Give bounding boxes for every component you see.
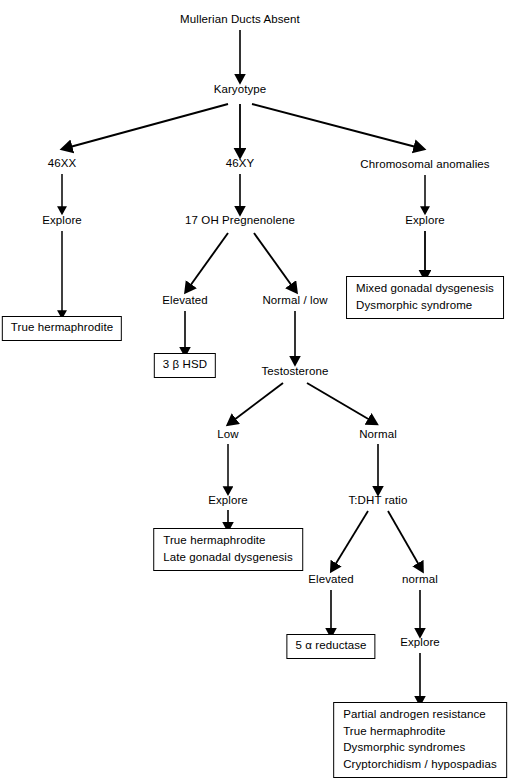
edge-testosterone-normal (307, 383, 370, 420)
node-normal-low-pregnenolene: Normal / low (262, 293, 327, 307)
node-normal-t-dht: normal (402, 572, 438, 586)
node-explore-low-testosterone: Explore (208, 493, 248, 507)
box-mixed-line-2: Dysmorphic syndrome (356, 298, 494, 314)
node-normal-testosterone: Normal (359, 427, 397, 441)
edge-tdht-elevated (335, 511, 368, 565)
box-3-beta-hsd: 3 β HSD (154, 353, 216, 378)
node-karyotype: Karyotype (214, 82, 267, 96)
box-final-line-4: Cryptorchidism / hypospadias (343, 757, 497, 773)
edge-testosterone-low (234, 383, 283, 420)
node-low-testosterone: Low (217, 427, 238, 441)
box-mixed-gonadal-dysgenesis: Mixed gonadal dysgenesis Dysmorphic synd… (346, 276, 504, 319)
box-final-diagnoses: Partial androgen resistance True hermaph… (333, 702, 507, 778)
box-true-herm-late-line-1: True hermaphrodite (163, 533, 293, 549)
edge-tdht-normal (388, 511, 419, 565)
flowchart-edges (0, 0, 524, 780)
node-explore-46xx: Explore (42, 213, 82, 227)
box-true-herm-late-line-2: Late gonadal dysgenesis (163, 550, 293, 566)
node-mullerian-ducts-absent: Mullerian Ducts Absent (180, 12, 300, 26)
edge-pregnenolene-elevated (190, 233, 228, 286)
edge-pregnenolene-normal-low (254, 233, 292, 286)
node-chromosomal-anomalies: Chromosomal anomalies (360, 157, 489, 171)
edge-karyotype-46xx (70, 104, 228, 147)
box-final-line-1: Partial androgen resistance (343, 707, 497, 723)
box-final-line-3: Dysmorphic syndromes (343, 740, 497, 756)
node-46xx: 46XX (48, 156, 77, 170)
node-17-oh-pregnenolene: 17 OH Pregnenolene (185, 213, 295, 227)
node-explore-final: Explore (400, 635, 440, 649)
node-t-dht-ratio: T:DHT ratio (348, 493, 407, 507)
node-46xy: 46XY (226, 156, 255, 170)
flowchart-canvas: Mullerian Ducts Absent Karyotype 46XX 46… (0, 0, 524, 780)
box-true-hermaphrodite: True hermaphrodite (2, 316, 122, 341)
box-final-line-2: True hermaphrodite (343, 724, 497, 740)
node-testosterone: Testosterone (261, 364, 328, 378)
box-true-hermaphrodite-late-gonadal-dysgenesis: True hermaphrodite Late gonadal dysgenes… (153, 528, 303, 571)
edge-karyotype-chromosomal (252, 104, 416, 147)
box-5-alpha-reductase: 5 α reductase (286, 634, 375, 659)
box-mixed-line-1: Mixed gonadal dysgenesis (356, 281, 494, 297)
node-elevated-t-dht: Elevated (308, 572, 354, 586)
node-elevated-pregnenolene: Elevated (162, 293, 208, 307)
node-explore-chromosomal: Explore (405, 213, 445, 227)
